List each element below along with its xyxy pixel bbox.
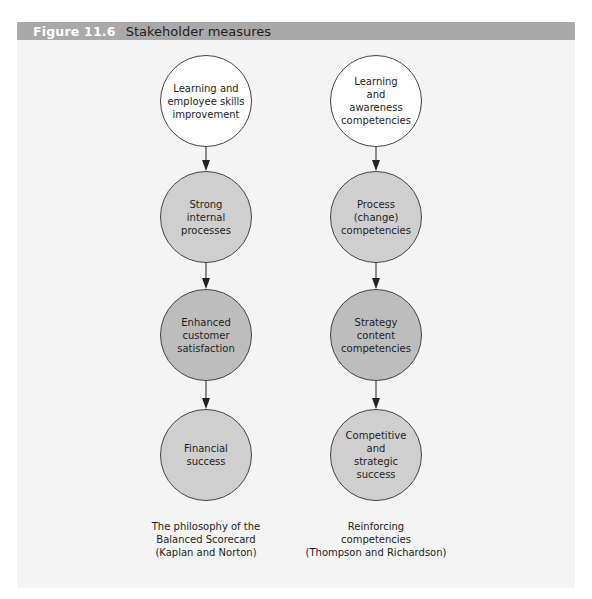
caption-reinforcing-competencies: Reinforcing competencies (Thompson and R… bbox=[286, 520, 466, 559]
node-learning-awareness-competencies: Learning and awareness competencies bbox=[330, 55, 422, 147]
node-enhanced-customer-satisfaction: Enhanced customer satisfaction bbox=[160, 289, 252, 381]
node-competitive-strategic-success: Competitive and strategic success bbox=[330, 409, 422, 501]
node-financial-success: Financial success bbox=[160, 409, 252, 501]
node-label: Competitive and strategic success bbox=[342, 429, 411, 481]
arrowhead-icon bbox=[372, 398, 380, 409]
node-strategy-content-competencies: Strategy content competencies bbox=[330, 289, 422, 381]
node-learning-employee-skills: Learning and employee skills improvement bbox=[160, 55, 252, 147]
caption-balanced-scorecard: The philosophy of the Balanced Scorecard… bbox=[116, 520, 296, 559]
node-label: Strategy content competencies bbox=[337, 316, 415, 355]
arrowhead-icon bbox=[202, 398, 210, 409]
node-label: Process (change) competencies bbox=[337, 198, 415, 237]
node-strong-internal-processes: Strong internal processes bbox=[160, 171, 252, 263]
arrowhead-icon bbox=[202, 160, 210, 171]
node-label: Strong internal processes bbox=[177, 198, 235, 237]
node-label: Enhanced customer satisfaction bbox=[173, 316, 239, 355]
arrowhead-icon bbox=[372, 160, 380, 171]
node-label: Learning and awareness competencies bbox=[337, 75, 415, 127]
arrowhead-icon bbox=[372, 278, 380, 289]
node-process-change-competencies: Process (change) competencies bbox=[330, 171, 422, 263]
connector-arrows bbox=[0, 0, 592, 599]
arrowhead-icon bbox=[202, 278, 210, 289]
node-label: Learning and employee skills improvement bbox=[163, 82, 248, 121]
node-label: Financial success bbox=[180, 442, 232, 468]
